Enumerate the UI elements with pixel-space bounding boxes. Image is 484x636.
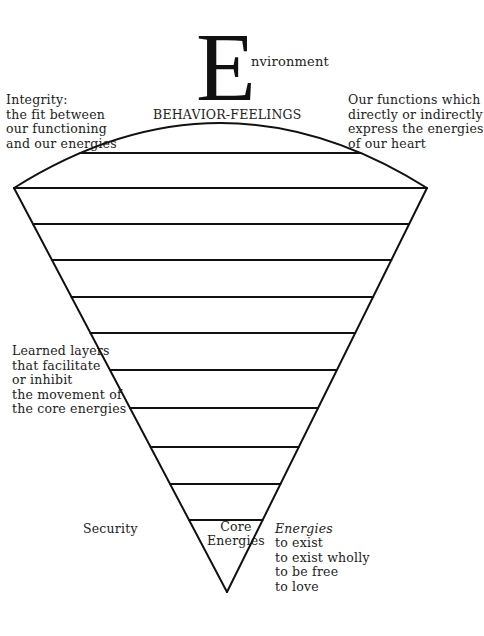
- cone-left-edge: [14, 188, 227, 592]
- top-arc: [14, 123, 427, 188]
- cone-right-edge: [227, 188, 427, 592]
